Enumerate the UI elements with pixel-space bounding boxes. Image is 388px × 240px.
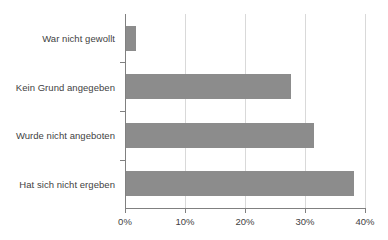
y-axis-label: Kein Grund angegeben [16, 81, 115, 92]
y-axis-labels: War nicht gewolltKein Grund angegebenWur… [0, 0, 121, 240]
bar [126, 123, 314, 148]
x-axis-tick-label: 30% [295, 216, 314, 227]
x-axis-tick-label: 20% [235, 216, 254, 227]
bar [126, 26, 136, 51]
bar-chart: War nicht gewolltKein Grund angegebenWur… [0, 0, 388, 240]
y-axis-label: Hat sich nicht ergeben [19, 178, 115, 189]
x-axis-tick-label: 10% [175, 216, 194, 227]
bar [126, 74, 291, 99]
bar [126, 171, 354, 196]
y-axis-label: War nicht gewollt [42, 33, 115, 44]
x-axis-tick-label: 0% [118, 216, 132, 227]
x-axis-tick-label: 40% [355, 216, 374, 227]
y-axis-label: Wurde nicht angeboten [16, 130, 115, 141]
